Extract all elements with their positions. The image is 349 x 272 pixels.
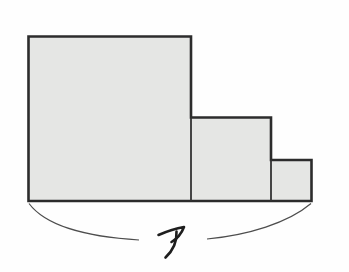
area-label-text: ア: [158, 226, 188, 261]
figure-canvas: ア: [0, 0, 349, 272]
staircase-area-figure: ア: [0, 0, 349, 272]
